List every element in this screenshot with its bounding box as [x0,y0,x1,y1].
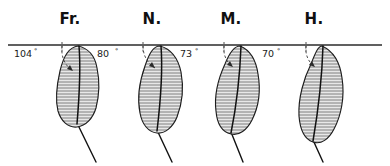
leaf-angle-figure: Fr. [0,0,390,166]
degree-symbol-n: ° [115,47,118,55]
angle-value-m: 73 [180,48,192,59]
specimen-m: M. [180,10,268,162]
specimen-h: H. [262,10,352,162]
specimen-label-n: N. [143,10,162,28]
petiole-fr [77,123,96,162]
angle-value-h: 70 [262,48,274,59]
degree-symbol-m: ° [195,47,198,55]
leaf-blade-h [299,46,343,143]
specimen-label-h: H. [305,10,324,28]
specimen-label-m: M. [220,10,241,28]
specimen-n: N. [97,10,190,162]
angle-value-fr: 104 [14,48,32,59]
degree-symbol-fr: ° [34,47,37,55]
petiole-n [157,130,172,162]
petiole-m [231,132,243,162]
degree-symbol-h: ° [277,47,280,55]
figure-canvas: Fr. [0,0,390,166]
specimen-label-fr: Fr. [59,10,80,28]
angle-value-n: 80 [97,48,109,59]
specimen-fr: Fr. [14,10,105,162]
